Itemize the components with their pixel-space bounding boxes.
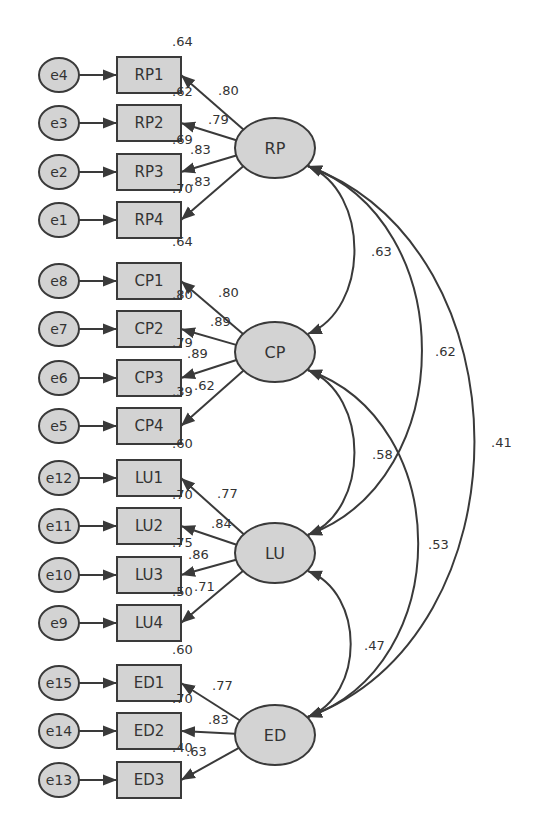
error-term-e1: e1 xyxy=(39,203,79,237)
indicator-label: CP4 xyxy=(134,417,163,435)
indicator-LU4: LU4 xyxy=(117,605,181,641)
indicator-label: LU4 xyxy=(135,614,163,632)
covariance-label: .62 xyxy=(435,344,456,359)
error-label: e15 xyxy=(46,675,72,691)
r-squared-label: .70 xyxy=(172,691,193,706)
error-term-e11: e11 xyxy=(39,509,79,543)
loading-label: .71 xyxy=(194,579,215,594)
covariance-RP-CP xyxy=(308,166,355,334)
indicator-label: CP3 xyxy=(134,369,163,387)
r-squared-label: .39 xyxy=(172,384,193,399)
error-term-e5: e5 xyxy=(39,409,79,443)
r-squared-label: .64 xyxy=(172,234,193,249)
error-term-e14: e14 xyxy=(39,714,79,748)
indicator-label: ED1 xyxy=(134,674,165,692)
error-term-e8: e8 xyxy=(39,264,79,298)
indicator-label: LU1 xyxy=(135,469,163,487)
latent-LU: LU xyxy=(235,523,315,583)
error-label: e1 xyxy=(50,212,68,228)
error-label: e11 xyxy=(46,518,72,534)
error-term-e4: e4 xyxy=(39,58,79,92)
sem-path-diagram: e4e3e2e1e8e7e6e5e12e11e10e9e15e14e13 RP1… xyxy=(0,0,536,834)
coefficient-labels: .63.62.41.58.53.47.64.62.69.70.64.80.79.… xyxy=(172,34,512,759)
indicator-label: RP3 xyxy=(134,163,163,181)
error-paths xyxy=(79,75,117,780)
latent-CP: CP xyxy=(235,322,315,382)
error-label: e4 xyxy=(50,67,68,83)
r-squared-label: .70 xyxy=(172,487,193,502)
loading-label: .89 xyxy=(187,346,208,361)
error-term-e3: e3 xyxy=(39,106,79,140)
covariance-label: .63 xyxy=(371,244,392,259)
loading-label: .63 xyxy=(186,744,207,759)
error-term-e15: e15 xyxy=(39,666,79,700)
error-term-e9: e9 xyxy=(39,606,79,640)
loading-arrow xyxy=(181,155,236,172)
error-term-e6: e6 xyxy=(39,361,79,395)
loading-label: .83 xyxy=(208,712,229,727)
indicator-label: ED3 xyxy=(134,771,165,789)
loading-arrow xyxy=(181,360,236,378)
indicator-label: LU3 xyxy=(135,566,163,584)
latent-RP: RP xyxy=(235,118,315,178)
error-label: e9 xyxy=(50,615,68,631)
loading-arrow xyxy=(181,731,235,734)
error-label: e10 xyxy=(46,567,72,583)
error-terms: e4e3e2e1e8e7e6e5e12e11e10e9e15e14e13 xyxy=(39,58,79,797)
latent-label: CP xyxy=(265,343,286,362)
loading-label: .83 xyxy=(190,142,211,157)
loading-label: .84 xyxy=(211,516,232,531)
latent-label: RP xyxy=(265,139,286,158)
indicator-ED3: ED3 xyxy=(117,762,181,798)
error-label: e2 xyxy=(50,164,68,180)
covariance-label: .47 xyxy=(364,638,385,653)
loading-arrow xyxy=(181,560,236,575)
error-label: e5 xyxy=(50,418,68,434)
loading-label: .62 xyxy=(194,378,215,393)
loading-label: .77 xyxy=(212,678,233,693)
r-squared-label: .64 xyxy=(172,34,193,49)
indicator-label: CP2 xyxy=(134,320,163,338)
loading-label: .83 xyxy=(190,174,211,189)
error-label: e3 xyxy=(50,115,68,131)
error-term-e7: e7 xyxy=(39,312,79,346)
latent-ED: ED xyxy=(235,705,315,765)
latent-factors: RPCPLUED xyxy=(235,118,315,765)
loading-label: .80 xyxy=(218,83,239,98)
latent-label: ED xyxy=(264,726,286,745)
covariance-label: .53 xyxy=(428,537,449,552)
error-label: e6 xyxy=(50,370,68,386)
covariance-label: .41 xyxy=(491,435,512,450)
indicator-label: RP1 xyxy=(134,66,163,84)
loading-label: .80 xyxy=(218,285,239,300)
indicator-label: ED2 xyxy=(134,722,165,740)
covariance-CP-ED xyxy=(308,370,418,717)
error-term-e13: e13 xyxy=(39,763,79,797)
loading-label: .89 xyxy=(210,314,231,329)
indicator-RP4: RP4 xyxy=(117,202,181,238)
error-label: e13 xyxy=(46,772,72,788)
error-label: e8 xyxy=(50,273,68,289)
r-squared-label: .62 xyxy=(172,84,193,99)
indicator-label: RP4 xyxy=(134,211,163,229)
loading-label: .77 xyxy=(217,486,238,501)
indicator-label: LU2 xyxy=(135,517,163,535)
covariance-label: .58 xyxy=(372,447,393,462)
error-label: e12 xyxy=(46,470,72,486)
r-squared-label: .80 xyxy=(172,287,193,302)
covariance-RP-LU xyxy=(308,166,422,535)
r-squared-label: .50 xyxy=(172,584,193,599)
indicator-label: RP2 xyxy=(134,114,163,132)
latent-label: LU xyxy=(265,544,285,563)
r-squared-label: .60 xyxy=(172,436,193,451)
covariance-CP-LU xyxy=(308,370,355,535)
loading-label: .86 xyxy=(188,547,209,562)
error-term-e2: e2 xyxy=(39,155,79,189)
error-term-e10: e10 xyxy=(39,558,79,592)
error-label: e14 xyxy=(46,723,73,739)
indicator-label: CP1 xyxy=(134,272,163,290)
error-term-e12: e12 xyxy=(39,461,79,495)
r-squared-label: .60 xyxy=(172,642,193,657)
covariance-LU-ED xyxy=(308,571,351,717)
error-label: e7 xyxy=(50,321,68,337)
